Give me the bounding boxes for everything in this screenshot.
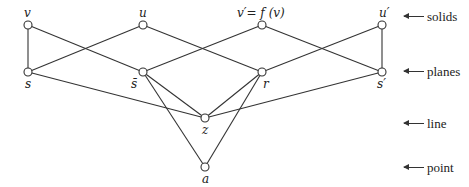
node-sbar xyxy=(139,68,147,76)
arrow-left-icon xyxy=(404,16,424,17)
level-label-solids: solids xyxy=(427,10,457,23)
node-up xyxy=(378,21,386,29)
node-a xyxy=(201,163,209,171)
node-r xyxy=(258,68,266,76)
node-label-s: s xyxy=(25,78,31,90)
level-point: point xyxy=(404,161,454,174)
edge-r-a xyxy=(205,72,262,167)
arrow-left-icon xyxy=(404,167,424,168)
node-label-u: u xyxy=(139,7,147,19)
level-planes: planes xyxy=(404,65,460,78)
node-z xyxy=(201,114,209,122)
arrow-left-icon xyxy=(404,123,424,124)
edge-sbar-a xyxy=(143,72,205,167)
level-solids: solids xyxy=(404,10,457,23)
level-line: line xyxy=(404,117,447,130)
node-s xyxy=(24,68,32,76)
diagram-graph xyxy=(0,0,469,187)
node-label-s-bar: s̄ xyxy=(131,78,137,90)
level-label-point: point xyxy=(427,161,454,174)
node-sp xyxy=(378,68,386,76)
edge-sp-z xyxy=(205,72,382,118)
node-label-u-prime: u′ xyxy=(379,7,389,19)
node-label-a: a xyxy=(202,173,209,185)
node-label-s-prime: s′ xyxy=(377,78,386,90)
level-label-planes: planes xyxy=(427,65,460,78)
node-u xyxy=(139,21,147,29)
node-label-v: v xyxy=(24,7,31,19)
level-label-line: line xyxy=(427,117,447,130)
node-v xyxy=(24,21,32,29)
hasse-diagram: v u v′= f (v) u′ s s̄ r s′ z a solids pl… xyxy=(0,0,469,187)
node-label-r: r xyxy=(263,78,269,90)
arrow-left-icon xyxy=(404,71,424,72)
node-label-v-prime: v′= f (v) xyxy=(237,7,285,19)
node-vp xyxy=(258,21,266,29)
node-label-z: z xyxy=(202,124,208,136)
edge-s-z xyxy=(28,72,205,118)
edge-sbar-z xyxy=(143,72,205,118)
